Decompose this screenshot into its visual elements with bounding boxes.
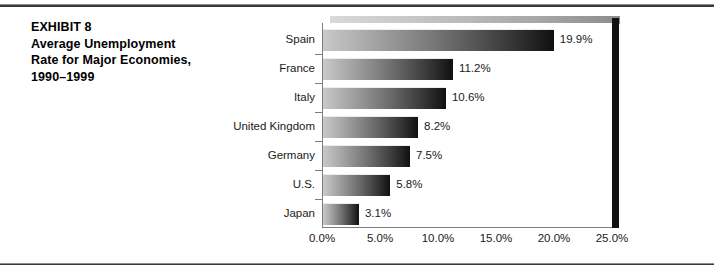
x-axis-tick-label: 25.0%: [582, 232, 642, 244]
x-axis-tick-label: 20.0%: [524, 232, 584, 244]
bar: [323, 87, 446, 109]
bar: [323, 145, 410, 167]
category-label: France: [115, 54, 315, 83]
bar-value-label: 19.9%: [560, 25, 593, 54]
bar-row: France11.2%: [0, 54, 714, 83]
bar-value-label: 10.6%: [452, 83, 485, 112]
bar: [323, 116, 418, 138]
bar-row: Italy10.6%: [0, 83, 714, 112]
y-axis-tick: [315, 54, 322, 55]
bar-row: U.S.5.8%: [0, 170, 714, 199]
category-label: Germany: [115, 141, 315, 170]
x-axis-tick-label: 10.0%: [408, 232, 468, 244]
y-axis-tick: [315, 83, 322, 84]
bar-value-label: 3.1%: [365, 199, 391, 228]
bar-row: Germany7.5%: [0, 141, 714, 170]
bar: [323, 58, 453, 80]
bar-value-label: 8.2%: [424, 112, 450, 141]
category-label: Spain: [115, 25, 315, 54]
y-axis-tick: [315, 112, 322, 113]
bar-row: Spain19.9%: [0, 25, 714, 54]
exhibit-figure: EXHIBIT 8 Average Unemployment Rate for …: [0, 0, 714, 269]
category-label: Italy: [115, 83, 315, 112]
bar: [323, 29, 554, 51]
bar-value-label: 7.5%: [416, 141, 442, 170]
bar: [323, 174, 390, 196]
x-axis-tick-label: 15.0%: [466, 232, 526, 244]
bar-value-label: 5.8%: [396, 170, 422, 199]
bar-row: United Kingdom8.2%: [0, 112, 714, 141]
bar-row: Japan3.1%: [0, 199, 714, 228]
y-axis-tick: [315, 170, 322, 171]
y-axis-tick: [315, 141, 322, 142]
x-axis-tick-label: 5.0%: [350, 232, 410, 244]
category-label: Japan: [115, 199, 315, 228]
category-label: United Kingdom: [115, 112, 315, 141]
bar: [323, 203, 359, 225]
y-axis-tick: [315, 199, 322, 200]
category-label: U.S.: [115, 170, 315, 199]
bar-value-label: 11.2%: [459, 54, 491, 83]
bar-chart: Spain19.9%France11.2%Italy10.6%United Ki…: [0, 0, 714, 269]
x-axis-tick-label: 0.0%: [292, 232, 352, 244]
